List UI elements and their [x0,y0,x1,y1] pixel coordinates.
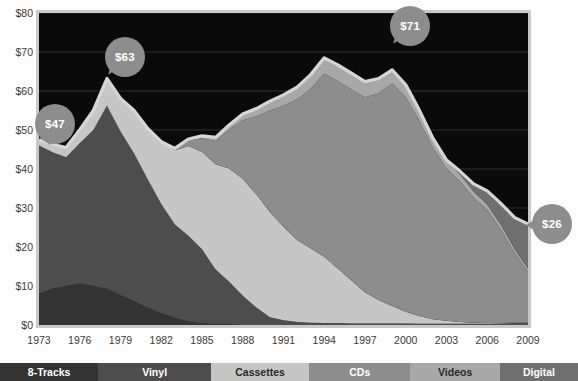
y-tick-label: $0 [1,320,33,330]
legend: 8-TracksVinylCassettesCDsVideosDigital [0,363,578,381]
x-axis: 1973197619791982198519881991199419972000… [0,331,578,351]
x-tick-label: 1973 [27,334,50,346]
x-tick-label: 1979 [109,334,132,346]
annotation-tail [526,220,534,230]
legend-item-videos[interactable]: Videos [410,363,500,381]
y-tick-label: $20 [1,242,33,252]
y-tick-label: $70 [1,47,33,57]
x-tick-label: 1985 [190,334,213,346]
legend-item-8-tracks[interactable]: 8-Tracks [0,363,98,381]
x-tick-label: 1991 [272,334,295,346]
legend-item-cds[interactable]: CDs [309,363,410,381]
y-tick-label: $60 [1,86,33,96]
x-tick-label: 1976 [68,334,91,346]
legend-item-cassettes[interactable]: Cassettes [211,363,309,381]
legend-item-vinyl[interactable]: Vinyl [98,363,211,381]
annotation-bubble: $26 [532,204,572,244]
y-tick-label: $40 [1,164,33,174]
x-tick-label: 1988 [231,334,254,346]
y-tick-label: $30 [1,203,33,213]
x-tick-label: 1982 [150,334,173,346]
x-tick-label: 2000 [394,334,417,346]
chart-screenshot: $80$70$60$50$40$30$20$10$0 $47$63$71$26 … [0,0,578,381]
y-tick-label: $50 [1,125,33,135]
x-tick-label: 2006 [476,334,499,346]
x-tick-label: 2003 [435,334,458,346]
y-axis: $80$70$60$50$40$30$20$10$0 [0,0,33,340]
y-tick-label: $80 [1,8,33,18]
x-tick-label: 1997 [353,334,376,346]
legend-item-digital[interactable]: Digital [500,363,578,381]
y-tick-label: $10 [1,281,33,291]
x-tick-label: 1994 [313,334,336,346]
x-tick-label: 2009 [516,334,539,346]
chart-area: $80$70$60$50$40$30$20$10$0 $47$63$71$26 … [0,0,578,356]
